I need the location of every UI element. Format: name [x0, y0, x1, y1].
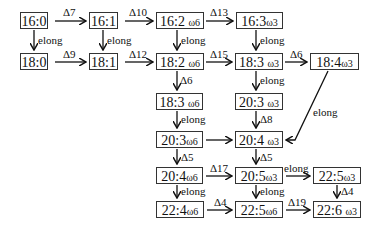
edge-label-d19: Δ19 — [288, 196, 306, 208]
omega-label: ω6 — [188, 58, 200, 69]
edge-label-d8: Δ8 — [260, 113, 273, 125]
node-label: 20:3 — [239, 95, 264, 110]
omega-label: ω3 — [267, 98, 279, 109]
node-18-0: 18:0 — [20, 53, 48, 70]
node-22-5-w3: 22:5ω3 — [313, 167, 361, 184]
omega-label: ω3 — [267, 136, 279, 147]
edge-label-elong: elong — [181, 34, 205, 46]
edge-label-d6: Δ6 — [290, 48, 303, 60]
omega-label: ω6 — [188, 17, 200, 28]
omega-label: ω6 — [186, 172, 198, 183]
edge-label-elong: elong — [181, 113, 205, 125]
edge-label-d12: Δ12 — [129, 48, 147, 60]
node-label: 22:6 — [317, 203, 342, 218]
edge-label-elong: elong — [260, 74, 284, 86]
node-label: 18:3 — [239, 55, 264, 70]
node-label: 18:2 — [160, 55, 185, 70]
node-22-6-w3: 22:6 ω3 — [313, 201, 361, 218]
node-label: 16:0 — [22, 14, 47, 29]
omega-label: ω3 — [344, 172, 356, 183]
edge-label-d15: Δ15 — [210, 48, 228, 60]
node-label: 20:3 — [161, 133, 186, 148]
node-label: 16:2 — [160, 14, 185, 29]
edge-label-d4: Δ4 — [341, 185, 354, 197]
edge-label-elong: elong — [181, 185, 205, 197]
node-20-5-w3: 20:5ω3 — [235, 167, 283, 184]
omega-label: ω3 — [267, 58, 279, 69]
edge-label-d10: Δ10 — [129, 6, 147, 18]
edge-label-d4: Δ4 — [214, 196, 227, 208]
edge-label-d5: Δ5 — [181, 151, 194, 163]
omega-label: ω3 — [341, 58, 353, 69]
node-20-4-w3: 20:4 ω3 — [235, 131, 283, 148]
omega-label: ω6 — [188, 98, 200, 109]
node-label: 18:0 — [22, 55, 47, 70]
node-label: 16:3 — [241, 14, 266, 29]
node-label: 22:5 — [319, 169, 344, 184]
node-label: 20:5 — [241, 169, 266, 184]
node-18-4-w3: 18:4ω3 — [310, 53, 359, 70]
node-label: 18:3 — [160, 95, 185, 110]
edge-label-d6: Δ6 — [180, 74, 193, 86]
node-22-5-w6: 22:5ω6 — [235, 201, 283, 218]
omega-label: ω3 — [266, 17, 278, 28]
edge-label-elong: elong — [260, 185, 284, 197]
node-18-3-w3: 18:3 ω3 — [235, 53, 283, 70]
omega-label: ω3 — [266, 172, 278, 183]
node-16-1: 16:1 — [89, 12, 118, 29]
node-label: 18:4 — [316, 55, 341, 70]
edge-label-d13: Δ13 — [210, 6, 228, 18]
node-label: 20:4 — [239, 133, 264, 148]
fatty-acid-pathway-diagram: 16:0 16:1 16:2 ω6 16:3ω3 18:0 18:1 18:2 … — [0, 0, 378, 231]
node-22-4-w6: 22:4ω6 — [156, 201, 204, 218]
omega-label: ω6 — [186, 136, 198, 147]
node-16-2-w6: 16:2 ω6 — [156, 12, 204, 29]
node-16-3-w3: 16:3ω3 — [236, 12, 283, 29]
edge-label-elong: elong — [313, 106, 337, 118]
node-18-2-w6: 18:2 ω6 — [156, 53, 204, 70]
edge-label-d9: Δ9 — [63, 48, 76, 60]
edge-label-elong: elong — [107, 34, 131, 46]
node-18-1: 18:1 — [89, 53, 118, 70]
edge-label-elong: elong — [38, 34, 62, 46]
edge-label-d7: Δ7 — [63, 6, 76, 18]
omega-label: ω3 — [345, 206, 357, 217]
omega-label: ω6 — [187, 206, 199, 217]
edge-label-elong: elong — [260, 34, 284, 46]
node-20-3-w6: 20:3ω6 — [156, 131, 203, 148]
node-label: 22:4 — [162, 203, 187, 218]
node-18-3-w6: 18:3 ω6 — [156, 93, 203, 110]
node-20-4-w6: 20:4ω6 — [156, 167, 203, 184]
node-label: 20:4 — [161, 169, 186, 184]
node-label: 16:1 — [91, 14, 116, 29]
node-label: 18:1 — [91, 55, 116, 70]
edge-label-d5: Δ5 — [260, 151, 273, 163]
node-20-3-w3: 20:3 ω3 — [235, 93, 283, 110]
edge-label-d17: Δ17 — [210, 162, 228, 174]
node-label: 22:5 — [241, 203, 266, 218]
node-16-0: 16:0 — [20, 12, 48, 29]
omega-label: ω6 — [266, 206, 278, 217]
edge-label-elong: elong — [284, 162, 308, 174]
